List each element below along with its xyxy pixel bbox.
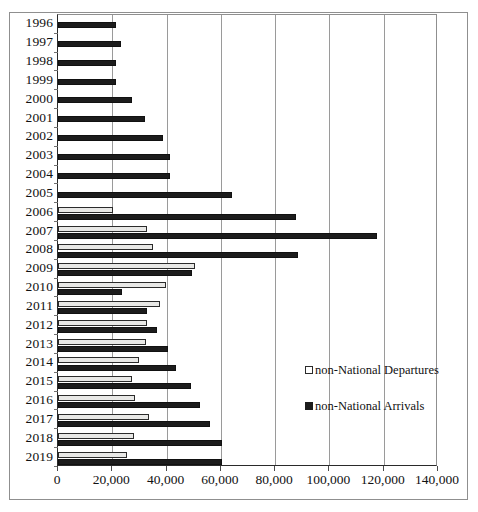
y-axis-label-2006: 2006	[5, 205, 53, 219]
category-row	[58, 15, 436, 34]
category-row	[58, 185, 436, 204]
legend-label-arrivals: non-National Arrivals	[315, 400, 424, 413]
y-axis-label-1998: 1998	[5, 54, 53, 68]
bar-arrivals	[58, 214, 296, 220]
bar-arrivals	[58, 365, 176, 371]
category-row	[58, 222, 436, 241]
bar-arrivals	[58, 289, 122, 295]
y-axis-label-2011: 2011	[5, 299, 53, 313]
x-axis-tick-20000	[111, 466, 112, 471]
legend-label-departures: non-National Departures	[315, 364, 439, 377]
category-row	[58, 298, 436, 317]
category-row	[58, 241, 436, 260]
bar-departures	[58, 357, 139, 363]
category-row	[58, 109, 436, 128]
y-axis-label-2001: 2001	[5, 111, 53, 125]
x-axis-label-80000: 80,000	[256, 473, 293, 487]
category-row	[58, 260, 436, 279]
bar-departures	[58, 301, 160, 307]
bar-arrivals	[58, 41, 121, 47]
category-row	[58, 203, 436, 222]
x-axis-label-120000: 120,000	[361, 473, 405, 487]
x-axis-tick-40000	[166, 466, 167, 471]
category-row	[58, 72, 436, 91]
category-row	[58, 448, 436, 467]
y-axis-label-2014: 2014	[5, 355, 53, 369]
y-axis-label-2005: 2005	[5, 186, 53, 200]
bar-arrivals	[58, 135, 163, 141]
y-axis-label-2013: 2013	[5, 337, 53, 351]
y-axis-label-2015: 2015	[5, 374, 53, 388]
bar-departures	[58, 320, 147, 326]
bar-departures	[58, 433, 134, 439]
open-square-marker-icon	[305, 366, 313, 374]
y-axis-label-2004: 2004	[5, 167, 53, 181]
y-axis-category-labels: 1996199719981999200020012002200320042005…	[3, 14, 53, 466]
bar-arrivals	[58, 116, 145, 122]
x-axis-tick-140000	[437, 466, 438, 471]
y-axis-label-2019: 2019	[5, 450, 53, 464]
category-row	[58, 34, 436, 53]
y-axis-label-2000: 2000	[5, 92, 53, 106]
y-axis-label-2017: 2017	[5, 412, 53, 426]
x-axis-label-20000: 20,000	[93, 473, 130, 487]
bar-arrivals	[58, 79, 116, 85]
y-axis-label-1996: 1996	[5, 16, 53, 30]
bar-arrivals	[58, 346, 168, 352]
bar-arrivals	[58, 383, 191, 389]
category-row	[58, 279, 436, 298]
bar-departures	[58, 452, 127, 458]
bar-departures	[58, 282, 166, 288]
bar-departures	[58, 376, 132, 382]
bar-arrivals	[58, 421, 210, 427]
category-row	[58, 128, 436, 147]
bar-arrivals	[58, 192, 232, 198]
x-axis-tick-80000	[274, 466, 275, 471]
y-axis-label-1997: 1997	[5, 35, 53, 49]
bar-departures	[58, 414, 149, 420]
bar-departures	[58, 263, 195, 269]
y-axis-label-2016: 2016	[5, 393, 53, 407]
bar-departures	[58, 395, 135, 401]
bar-arrivals	[58, 252, 298, 258]
y-axis-label-2008: 2008	[5, 242, 53, 256]
x-axis-label-140000: 140,000	[415, 473, 459, 487]
bar-arrivals	[58, 154, 170, 160]
y-axis-label-2007: 2007	[5, 224, 53, 238]
bar-arrivals	[58, 440, 222, 446]
legend-item-departures: non-National Departures	[305, 362, 435, 378]
x-axis-tick-0	[57, 466, 58, 471]
y-axis-label-2012: 2012	[5, 318, 53, 332]
bar-arrivals	[58, 308, 147, 314]
chart-screenshot: 1996199719981999200020012002200320042005…	[0, 0, 478, 512]
bar-arrivals	[58, 327, 157, 333]
category-row	[58, 53, 436, 72]
y-axis-label-1999: 1999	[5, 73, 53, 87]
x-axis: 020,00040,00060,00080,000100,000120,0001…	[57, 466, 437, 496]
bar-departures	[58, 226, 147, 232]
bar-arrivals	[58, 402, 200, 408]
x-axis-tick-120000	[383, 466, 384, 471]
category-row	[58, 335, 436, 354]
bar-arrivals	[58, 60, 116, 66]
filled-square-marker-icon	[305, 402, 313, 410]
x-axis-label-60000: 60,000	[201, 473, 238, 487]
x-axis-label-100000: 100,000	[306, 473, 350, 487]
bar-departures	[58, 207, 113, 213]
x-axis-label-40000: 40,000	[147, 473, 184, 487]
x-axis-label-0: 0	[54, 473, 61, 487]
x-axis-tick-60000	[220, 466, 221, 471]
bar-arrivals	[58, 270, 192, 276]
x-axis-tick-100000	[328, 466, 329, 471]
category-row	[58, 316, 436, 335]
bar-arrivals	[58, 233, 377, 239]
category-row	[58, 90, 436, 109]
bar-arrivals	[58, 173, 170, 179]
bar-arrivals	[58, 459, 222, 465]
y-axis-label-2010: 2010	[5, 280, 53, 294]
bar-arrivals	[58, 22, 116, 28]
y-axis-label-2018: 2018	[5, 431, 53, 445]
y-axis-label-2003: 2003	[5, 148, 53, 162]
chart-legend: non-National Departures non-National Arr…	[305, 362, 435, 434]
category-row	[58, 147, 436, 166]
